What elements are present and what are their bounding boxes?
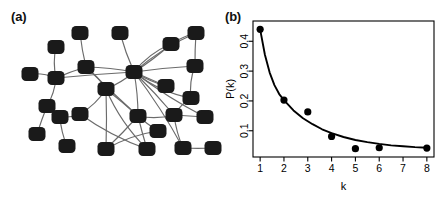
panel-b-degree-distribution: (b) 123456780.10.20.30.4kP(k) [224,0,447,197]
network-node[interactable] [48,40,65,54]
fit-curve [260,29,427,147]
x-tick-label: 4 [329,162,335,174]
x-tick-label: 1 [257,162,263,174]
x-tick-label: 3 [305,162,311,174]
network-node[interactable] [98,82,115,96]
figure-container: (a) (b) 123456780.10.20.30.4kP(k) [0,0,447,197]
data-point[interactable] [376,144,383,151]
network-node[interactable] [197,110,214,124]
network-node[interactable] [175,141,192,155]
network-node[interactable] [166,108,183,122]
y-tick-label: 0.4 [238,34,250,49]
network-node[interactable] [183,91,200,105]
network-node[interactable] [98,142,115,156]
y-axis-label: P(k) [224,79,236,99]
x-tick-label: 6 [376,162,382,174]
x-tick-label: 7 [400,162,406,174]
degree-distribution-plot-svg: 123456780.10.20.30.4kP(k) [224,0,447,197]
x-tick-label: 5 [352,162,358,174]
panel-a-network: (a) [0,0,224,197]
data-point[interactable] [328,133,335,140]
network-node[interactable] [112,26,129,40]
network-node[interactable] [126,65,143,79]
network-node[interactable] [22,67,39,81]
network-node[interactable] [139,142,156,156]
x-axis-label: k [341,180,347,192]
network-node[interactable] [39,99,56,113]
network-node[interactable] [72,26,89,40]
network-node[interactable] [59,139,76,153]
network-node[interactable] [52,110,69,124]
network-node[interactable] [158,79,175,93]
network-node[interactable] [48,71,65,85]
network-edge [134,66,195,72]
network-node[interactable] [29,127,46,141]
network-node[interactable] [205,141,222,155]
network-node[interactable] [163,37,180,51]
network-node[interactable] [150,124,167,138]
data-point[interactable] [257,26,264,33]
network-node[interactable] [130,109,147,123]
x-axis-group: 12345678 [257,157,430,174]
network-node[interactable] [72,107,89,121]
data-point[interactable] [304,108,311,115]
x-tick-label: 8 [424,162,430,174]
data-point[interactable] [280,96,287,103]
network-node[interactable] [78,60,95,74]
network-node[interactable] [188,26,205,40]
data-point[interactable] [423,144,430,151]
network-graph-svg [0,0,224,197]
data-point-group [257,26,431,152]
y-tick-label: 0.1 [238,123,250,138]
network-edge [106,89,107,149]
network-node-group [22,26,222,156]
y-tick-label: 0.3 [238,64,250,79]
y-tick-label: 0.2 [238,93,250,108]
y-axis-group: 0.10.20.30.4 [238,34,253,138]
x-tick-label: 2 [281,162,287,174]
data-point[interactable] [352,145,359,152]
network-node[interactable] [187,59,204,73]
